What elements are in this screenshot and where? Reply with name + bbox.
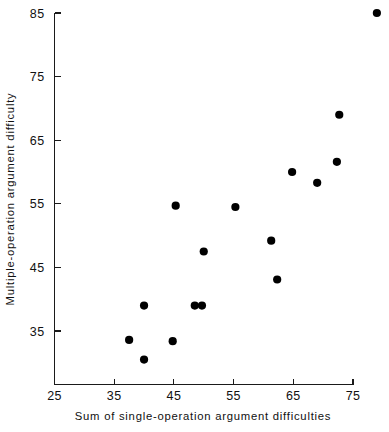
- data-point: [172, 202, 180, 210]
- data-point: [198, 301, 206, 309]
- x-axis-title: Sum of single-operation argument difficu…: [75, 410, 331, 422]
- x-tick-label-65: 65: [286, 389, 301, 403]
- data-point: [200, 247, 208, 255]
- plot-background: [0, 0, 389, 432]
- data-point: [140, 301, 148, 309]
- y-tick-label-85: 85: [30, 7, 45, 21]
- data-point: [191, 301, 199, 309]
- data-point: [231, 203, 239, 211]
- y-tick-label-35: 35: [30, 325, 45, 339]
- y-tick-label-55: 55: [30, 197, 45, 211]
- data-point: [169, 337, 177, 345]
- x-tick-label-75: 75: [346, 389, 361, 403]
- y-tick-label-75: 75: [30, 70, 45, 84]
- y-axis-title: Multiple-operation argument difficulty: [4, 93, 16, 306]
- data-point: [273, 275, 281, 283]
- data-point: [140, 356, 148, 364]
- y-tick-label-45: 45: [30, 261, 45, 275]
- data-point: [267, 237, 275, 245]
- data-point: [313, 179, 321, 187]
- y-tick-label-65: 65: [30, 134, 45, 148]
- x-tick-label-25: 25: [47, 389, 62, 403]
- x-tick-label-55: 55: [226, 389, 241, 403]
- data-point: [333, 158, 341, 166]
- scatter-plot-figure: 354555657585 253545556575 Sum of single-…: [0, 0, 389, 432]
- data-point: [125, 336, 133, 344]
- data-point: [335, 111, 343, 119]
- data-point: [288, 168, 296, 176]
- data-point: [373, 9, 381, 17]
- x-tick-label-35: 35: [107, 389, 122, 403]
- x-tick-label-45: 45: [167, 389, 182, 403]
